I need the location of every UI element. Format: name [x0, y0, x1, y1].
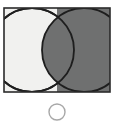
right-circle-shape [42, 8, 116, 92]
answer-circle-shape[interactable] [49, 104, 65, 120]
shape-figure-svg [0, 0, 116, 126]
panel-shapes [0, 8, 116, 92]
figure-canvas [0, 0, 116, 126]
